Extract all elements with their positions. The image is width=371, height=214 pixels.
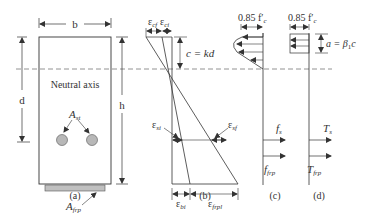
caption-a: (a): [69, 190, 80, 202]
parabolic-stress-block: [233, 37, 263, 69]
height-label: h: [119, 99, 125, 111]
frp-area-label: Afrp: [65, 200, 81, 214]
neutral-axis-label: Neutral axis: [51, 79, 100, 90]
rebar-left: [57, 135, 68, 146]
steel-area-label: Ast: [68, 108, 81, 122]
frp-force-label: Tfrp: [307, 163, 322, 177]
frp-stress-label: ffrp: [264, 163, 276, 177]
caption-b: (b): [199, 190, 211, 202]
strain-bi-label: εbi: [176, 198, 186, 211]
width-label: b: [72, 18, 78, 30]
stress-top-label: 0.85 f′c: [238, 12, 268, 25]
strain-si-label: εsi: [152, 119, 161, 132]
caption-c: (c): [269, 190, 280, 202]
panel-c-stress: [233, 24, 285, 185]
block-depth-label: a = β1c: [326, 38, 356, 51]
rebar-right: [87, 135, 98, 146]
na-depth-label: c = kd: [186, 47, 215, 59]
strain-sf-label: εsf: [228, 119, 238, 132]
caption-d: (d): [313, 190, 325, 202]
panel-d-forces: [290, 24, 331, 185]
strain-ci-label: εci: [160, 16, 169, 29]
equivalent-stress-block: [290, 34, 309, 53]
rc-beam-frp-diagram: b d h Neutral axis Ast Afrp (a) εcf εci …: [0, 0, 371, 214]
steel-force-label: Ts: [323, 122, 332, 136]
depth-label: d: [19, 94, 25, 106]
steel-stress-label: fs: [276, 122, 282, 136]
force-top-label: 0.85 f′c: [288, 12, 318, 25]
strain-cf-label: εcf: [148, 16, 158, 29]
